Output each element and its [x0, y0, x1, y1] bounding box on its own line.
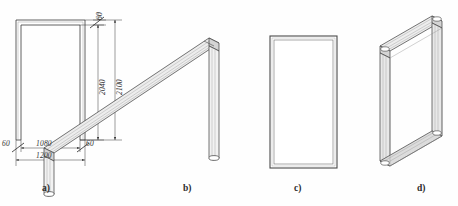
dim-left-jamb-thickness: 60 — [2, 139, 10, 148]
figure-caption-d: d) — [417, 183, 425, 193]
figure-d-isometric-closed-frame — [380, 16, 442, 166]
dim-right-jamb-thickness: 60 — [86, 139, 94, 148]
figure-c-flat-closed-frame — [270, 36, 337, 168]
figure-caption-a: a) — [42, 183, 50, 193]
figure-a-flat-u-frame — [16, 20, 85, 140]
figure-b-isometric-u-frame — [44, 38, 219, 196]
dim-top-jamb-thickness: 60 — [95, 12, 104, 20]
dim-overall-height: 2100 — [115, 79, 124, 95]
dim-clear-height: 2040 — [98, 79, 107, 95]
dim-clear-width: 1080 — [36, 139, 52, 148]
technical-drawing-canvas — [0, 0, 458, 206]
dim-overall-width: 1200 — [36, 151, 52, 160]
figure-caption-b: b) — [183, 183, 191, 193]
figure-caption-c: c) — [294, 183, 301, 193]
